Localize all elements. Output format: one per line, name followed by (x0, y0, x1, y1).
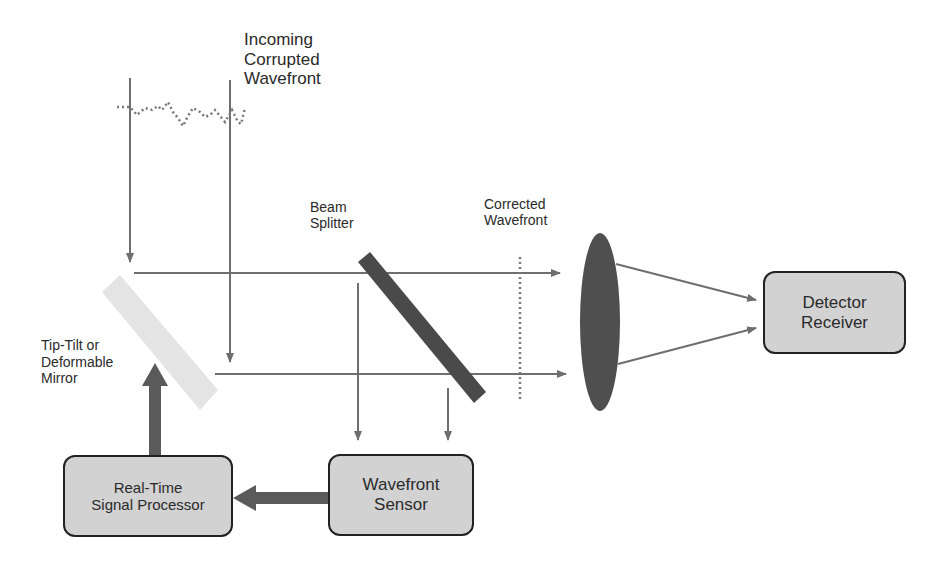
label-line: Tip-Tilt or (41, 337, 113, 354)
control-arrow-to-mirror (142, 363, 168, 457)
label-line: Deformable (41, 354, 113, 371)
label-line: Incoming (244, 30, 321, 50)
label-line: Wavefront (484, 212, 547, 228)
label-line: Wavefront (244, 69, 321, 89)
label-line: Mirror (41, 370, 113, 387)
signal-processor-box: Real-Time Signal Processor (63, 455, 233, 537)
incoming-wavefront-label: Incoming Corrupted Wavefront (244, 30, 321, 89)
focus-beam-top (616, 264, 756, 300)
beam-splitter-label: Beam Splitter (310, 199, 354, 231)
box-line: Signal Processor (91, 496, 204, 513)
label-line: Splitter (310, 215, 354, 231)
box-line: Detector (802, 293, 866, 313)
focus-beam-bottom (618, 328, 756, 364)
box-line: Receiver (801, 313, 868, 333)
box-line: Sensor (374, 495, 428, 515)
lens (580, 233, 620, 411)
detector-receiver-box: Detector Receiver (763, 271, 906, 354)
label-line: Corrected (484, 196, 547, 212)
feedback-arrow-to-processor (233, 485, 328, 511)
corrected-wavefront-label: Corrected Wavefront (484, 196, 547, 228)
beam-splitter (358, 252, 486, 403)
box-line: Wavefront (363, 475, 440, 495)
label-line: Corrupted (244, 50, 321, 70)
corrupted-wavefront (117, 102, 245, 126)
label-line: Beam (310, 199, 354, 215)
mirror-label: Tip-Tilt or Deformable Mirror (41, 337, 113, 387)
box-line: Real-Time (114, 479, 183, 496)
wavefront-sensor-box: Wavefront Sensor (328, 454, 474, 536)
